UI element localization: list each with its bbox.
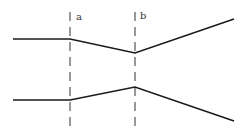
marker-label-a: a [76, 12, 82, 22]
lower-line [13, 87, 234, 121]
diagram-svg [0, 0, 249, 133]
marker-label-b: b [140, 11, 146, 21]
upper-line [13, 19, 234, 53]
diagram-canvas: a b [0, 0, 249, 133]
